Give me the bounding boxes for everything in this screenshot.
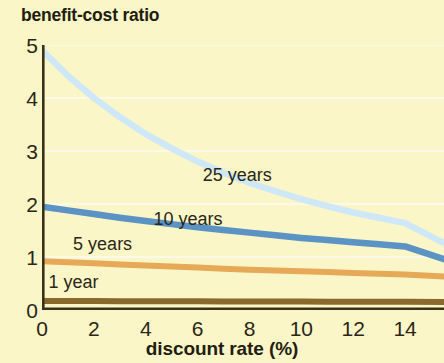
series-line-5-years	[42, 261, 444, 276]
y-tick-label: 5	[10, 35, 38, 56]
chart-title: benefit-cost ratio	[21, 5, 159, 26]
y-tick-label: 4	[10, 88, 38, 109]
series-line-1-year	[42, 301, 444, 302]
series-annotation-25-years: 25 years	[203, 166, 272, 184]
chart-container: benefit-cost ratio 5 4 3 2 1 0	[0, 0, 444, 363]
x-tick-label: 0	[22, 318, 62, 339]
x-tick-label: 12	[333, 318, 373, 339]
series-annotation-10-years: 10 years	[154, 210, 223, 228]
y-tick-label: 1	[10, 247, 38, 268]
x-tick-label: 6	[178, 318, 218, 339]
x-axis-title: discount rate (%)	[0, 338, 444, 360]
x-tick-label: 10	[281, 318, 321, 339]
x-tick-label: 4	[126, 318, 166, 339]
gridlines	[42, 45, 444, 257]
x-tick-label: 14	[385, 318, 425, 339]
plot-area: 25 years 10 years 5 years 1 year	[42, 45, 444, 310]
x-tick-label: 8	[229, 318, 269, 339]
x-tick-label: 2	[74, 318, 114, 339]
y-tick-label: 3	[10, 141, 38, 162]
series-annotation-1-year: 1 year	[49, 273, 99, 291]
y-axis-tick-labels: 5 4 3 2 1 0	[0, 0, 38, 363]
series-annotation-5-years: 5 years	[73, 235, 132, 253]
y-tick-label: 2	[10, 194, 38, 215]
